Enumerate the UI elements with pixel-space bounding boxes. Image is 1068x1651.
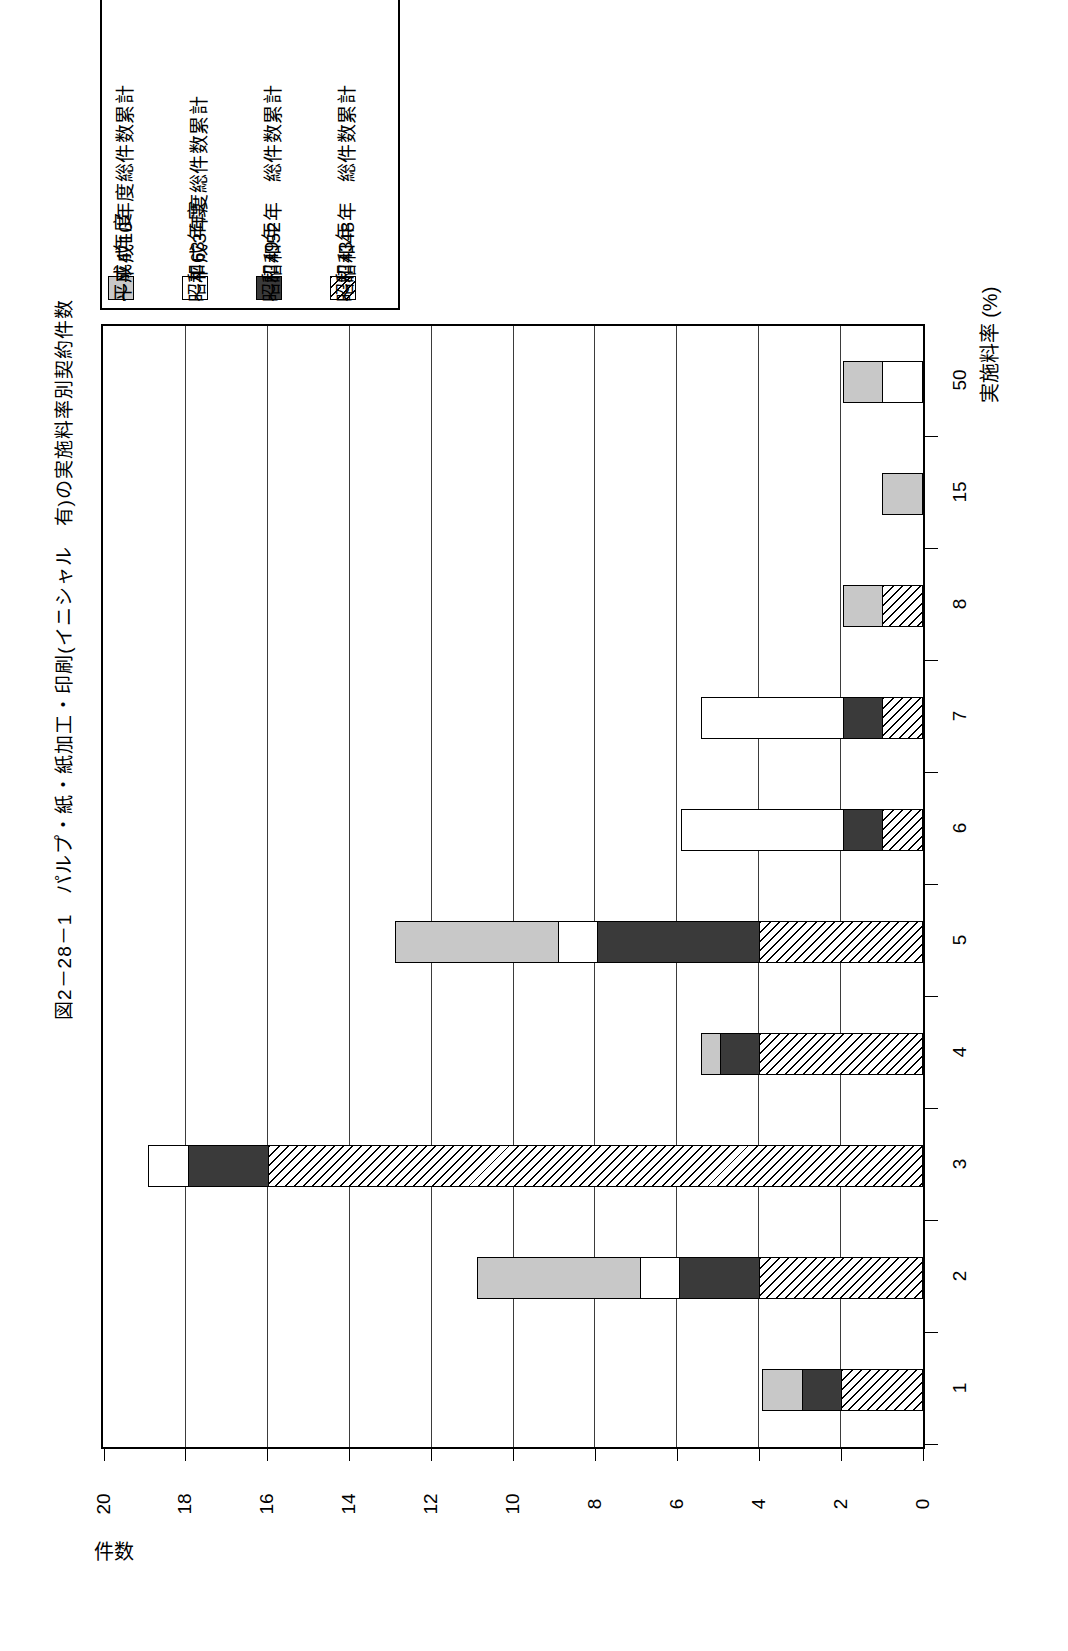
value-tick-label: 10 bbox=[501, 1481, 525, 1527]
category-tick-label: 1 bbox=[948, 1368, 972, 1408]
bar-row[interactable] bbox=[884, 473, 923, 515]
value-tick-mark bbox=[595, 1449, 596, 1461]
bar-segment[interactable] bbox=[882, 473, 923, 515]
value-tick-mark bbox=[267, 1449, 268, 1461]
value-tick-label: 6 bbox=[665, 1481, 689, 1527]
bar-segment[interactable] bbox=[477, 1257, 641, 1299]
value-tick-mark bbox=[513, 1449, 514, 1461]
bar-segment[interactable] bbox=[882, 809, 923, 851]
bar-row[interactable] bbox=[682, 809, 923, 851]
value-tick-label: 8 bbox=[583, 1481, 607, 1527]
category-tick-mark bbox=[925, 436, 938, 437]
legend-label: ～平成3年度総件数累計 bbox=[186, 2, 214, 302]
gridline bbox=[349, 326, 350, 1447]
bar-segment[interactable] bbox=[759, 1033, 923, 1075]
category-tick-label: 2 bbox=[948, 1256, 972, 1296]
plot-area bbox=[101, 324, 925, 1449]
value-tick-label: 14 bbox=[337, 1481, 361, 1527]
value-tick-mark bbox=[677, 1449, 678, 1461]
gridline bbox=[431, 326, 432, 1447]
bar-segment[interactable] bbox=[843, 361, 884, 403]
bar-row[interactable] bbox=[150, 1145, 923, 1187]
category-tick-label: 15 bbox=[948, 472, 972, 512]
value-tick-mark bbox=[349, 1449, 350, 1461]
bar-segment[interactable] bbox=[701, 1033, 721, 1075]
bar-segment[interactable] bbox=[395, 921, 559, 963]
value-tick-label: 16 bbox=[255, 1481, 279, 1527]
bar-row[interactable] bbox=[703, 697, 923, 739]
category-tick-label: 5 bbox=[948, 920, 972, 960]
bar-row[interactable] bbox=[703, 1033, 923, 1075]
value-tick-label: 18 bbox=[173, 1481, 197, 1527]
bar-segment[interactable] bbox=[843, 585, 884, 627]
value-tick-label: 20 bbox=[92, 1481, 116, 1527]
bar-segment[interactable] bbox=[843, 697, 884, 739]
bar-segment[interactable] bbox=[759, 1257, 923, 1299]
category-tick-label: 4 bbox=[948, 1032, 972, 1072]
bar-segment[interactable] bbox=[701, 697, 844, 739]
gridline bbox=[267, 326, 268, 1447]
bar-segment[interactable] bbox=[720, 1033, 761, 1075]
bar-segment[interactable] bbox=[802, 1369, 843, 1411]
bar-segment[interactable] bbox=[679, 1257, 761, 1299]
value-tick-mark bbox=[431, 1449, 432, 1461]
bar-segment[interactable] bbox=[558, 921, 599, 963]
value-tick-mark bbox=[841, 1449, 842, 1461]
bar-row[interactable] bbox=[764, 1369, 923, 1411]
bar-segment[interactable] bbox=[597, 921, 761, 963]
bar-segment[interactable] bbox=[681, 809, 845, 851]
legend-label: ～昭和48年 総件数累計 bbox=[334, 2, 362, 302]
bar-segment[interactable] bbox=[148, 1145, 189, 1187]
category-tick-mark bbox=[925, 660, 938, 661]
bar-segment[interactable] bbox=[843, 809, 884, 851]
bar-segment[interactable] bbox=[759, 921, 923, 963]
category-tick-mark bbox=[925, 1444, 938, 1445]
bar-segment[interactable] bbox=[268, 1145, 923, 1187]
gridline bbox=[185, 326, 186, 1447]
legend-label: ～昭和52年 総件数累計 bbox=[260, 2, 288, 302]
value-tick-label: 0 bbox=[911, 1481, 935, 1527]
legend-label: ～平成10年度総件数累計 bbox=[112, 2, 140, 302]
value-tick-mark bbox=[923, 1449, 924, 1461]
bar-segment[interactable] bbox=[882, 697, 923, 739]
bar-row[interactable] bbox=[479, 1257, 923, 1299]
value-tick-mark bbox=[759, 1449, 760, 1461]
category-tick-mark bbox=[925, 772, 938, 773]
bar-row[interactable] bbox=[844, 585, 923, 627]
bar-row[interactable] bbox=[397, 921, 923, 963]
category-tick-mark bbox=[925, 1332, 938, 1333]
bar-row[interactable] bbox=[844, 361, 923, 403]
category-tick-mark bbox=[925, 1220, 938, 1221]
value-axis-title: 件数 bbox=[92, 1537, 136, 1597]
value-tick-label: 12 bbox=[419, 1481, 443, 1527]
value-tick-mark bbox=[104, 1449, 105, 1461]
category-tick-mark bbox=[925, 996, 938, 997]
legend: 平成4年度 ～平成10年度総件数累計 昭和63年度 ～平成3年度総件数累計 昭和… bbox=[100, 0, 400, 310]
bar-segment[interactable] bbox=[882, 585, 923, 627]
value-tick-label: 4 bbox=[747, 1481, 771, 1527]
category-tick-mark bbox=[925, 1108, 938, 1109]
value-tick-mark bbox=[185, 1449, 186, 1461]
category-tick-label: 8 bbox=[948, 584, 972, 624]
legend-item-7: ～昭和48年 総件数累計 bbox=[362, 238, 662, 302]
bar-segment[interactable] bbox=[640, 1257, 681, 1299]
bar-segment[interactable] bbox=[841, 1369, 923, 1411]
category-tick-label: 50 bbox=[948, 360, 972, 400]
category-tick-mark bbox=[925, 548, 938, 549]
category-axis-title: 実施料率 (%) bbox=[975, 235, 1005, 455]
category-tick-label: 3 bbox=[948, 1144, 972, 1184]
category-tick-label: 7 bbox=[948, 696, 972, 736]
value-tick-label: 2 bbox=[829, 1481, 853, 1527]
bar-segment[interactable] bbox=[762, 1369, 803, 1411]
category-tick-mark bbox=[925, 884, 938, 885]
category-tick-label: 6 bbox=[948, 808, 972, 848]
bar-segment[interactable] bbox=[882, 361, 923, 403]
page-title: 図2－28－1 パルプ・紙・紙加工・印刷(イニシャル 有)の実施料率別契約件数 bbox=[45, 360, 85, 1020]
bar-segment[interactable] bbox=[188, 1145, 270, 1187]
